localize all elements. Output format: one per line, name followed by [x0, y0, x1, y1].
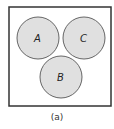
- venn-diagram: A C B: [0, 0, 114, 129]
- set-c-label: C: [80, 33, 87, 44]
- set-a-label: A: [33, 33, 41, 44]
- figure-caption: (a): [0, 112, 114, 122]
- set-b-label: B: [57, 72, 64, 83]
